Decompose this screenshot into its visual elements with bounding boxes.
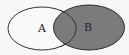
set-b-label: B (84, 21, 92, 34)
venn-diagram: A B (0, 0, 129, 55)
set-a-label: A (37, 22, 47, 35)
